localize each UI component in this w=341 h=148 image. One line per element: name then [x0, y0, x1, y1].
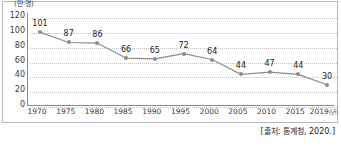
- data-point-label: 30: [322, 73, 332, 81]
- data-point-label: 66: [121, 46, 131, 54]
- x-axis-tick-label: 1970: [27, 108, 46, 116]
- x-axis-tick-label: 1990: [142, 108, 161, 116]
- y-axis-tick-label: 120: [10, 12, 25, 20]
- data-point-label: 101: [32, 20, 47, 28]
- data-point-label: 44: [293, 62, 303, 70]
- data-point-label: 64: [207, 48, 217, 56]
- x-axis-tick-label: 2019(년): [310, 108, 338, 116]
- y-axis-tick-label: 60: [15, 57, 25, 65]
- y-axis-tick-label: 100: [10, 27, 25, 35]
- data-point-label: 65: [150, 47, 160, 55]
- y-axis-tick-label: 0: [20, 101, 25, 109]
- x-axis-tick-label: 1980: [85, 108, 104, 116]
- source-note: [출처: 통계청, 2020.]: [261, 128, 335, 136]
- x-axis-tick-label: 1985: [114, 108, 133, 116]
- series-line: [30, 18, 337, 107]
- y-axis-tick-label: 40: [15, 71, 25, 79]
- x-axis-tick-label: 2015: [286, 108, 305, 116]
- chart-figure: 10187866665726444474430 (만 명) 0204060801…: [0, 0, 341, 148]
- plot-area: 10187866665726444474430: [30, 18, 337, 107]
- x-axis-tick-label: 1975: [56, 108, 75, 116]
- x-axis-tick-label: 1995: [171, 108, 190, 116]
- data-point-label: 72: [178, 42, 188, 50]
- data-point-label: 86: [92, 31, 102, 39]
- data-point-marker: [210, 58, 214, 62]
- data-point-label: 44: [236, 62, 246, 70]
- y-axis-tick-label: 20: [15, 86, 25, 94]
- y-axis-line: [27, 13, 28, 105]
- data-point-label: 47: [265, 60, 275, 68]
- x-axis-unit-suffix: (년): [329, 109, 338, 115]
- y-axis-tick-label: 80: [15, 42, 25, 50]
- data-point-marker: [325, 83, 329, 87]
- data-point-marker: [268, 70, 272, 74]
- x-axis-tick-label: 2000: [200, 108, 219, 116]
- y-axis-tick-labels: 020406080100120: [0, 0, 25, 148]
- data-point-marker: [182, 52, 186, 56]
- data-point-marker: [153, 57, 157, 61]
- x-axis-tick-label: 2010: [257, 108, 276, 116]
- data-point-label: 87: [64, 30, 74, 38]
- x-axis-line: [27, 105, 334, 106]
- x-axis-tick-label: 2005: [228, 108, 247, 116]
